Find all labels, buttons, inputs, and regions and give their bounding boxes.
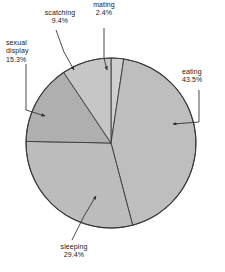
pie-label-sexual-display-value: 15.3% xyxy=(6,56,52,64)
pie-chart-figure: scatching 9.4% mating 2.4% sexual displa… xyxy=(0,0,225,272)
pie-label-scratching-name: scatching xyxy=(38,9,82,17)
pie-label-mating-value: 2.4% xyxy=(84,9,124,17)
pie-label-sexual-display-name-line1: sexual xyxy=(6,39,52,47)
pie-label-sleeping-value: 29.4% xyxy=(50,251,98,259)
pie-label-sexual-display-name-line2: display xyxy=(6,47,52,55)
pie-slice-group xyxy=(26,58,196,228)
pie-label-eating-name: eating xyxy=(182,68,222,76)
pie-label-sexual-display: sexual display 15.3% xyxy=(6,39,52,64)
pie-label-eating: eating 43.5% xyxy=(182,68,222,85)
pie-label-sleeping: sleeping 29.4% xyxy=(50,243,98,260)
pie-label-scratching: scatching 9.4% xyxy=(38,9,82,26)
pie-label-eating-value: 43.5% xyxy=(182,76,222,84)
leader-line-scratching xyxy=(56,30,74,70)
pie-label-scratching-value: 9.4% xyxy=(38,17,82,25)
pie-label-mating: mating 2.4% xyxy=(84,1,124,18)
pie-label-sleeping-name: sleeping xyxy=(50,243,98,251)
pie-label-mating-name: mating xyxy=(84,1,124,9)
